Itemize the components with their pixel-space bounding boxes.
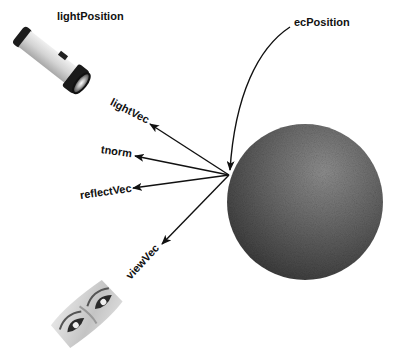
lighting-vectors-diagram: lightPosition ecPosition lightVec tnorm …	[0, 0, 398, 352]
eyes-icon	[49, 277, 125, 349]
light-position-label: lightPosition	[57, 11, 124, 22]
ec-position-label: ecPosition	[294, 17, 350, 28]
view-vec-arrow	[162, 175, 229, 244]
sphere-surface	[227, 124, 383, 280]
reflect-vec-arrow	[133, 175, 229, 188]
flashlight-icon	[10, 23, 94, 97]
